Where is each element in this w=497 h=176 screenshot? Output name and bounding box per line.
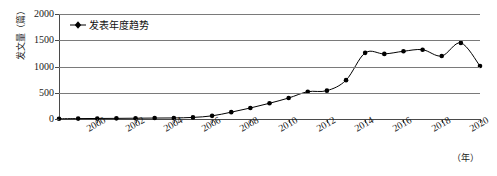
data-point-marker [248,106,253,111]
y-tick-label: 1500 [20,35,54,45]
x-axis-unit-label: （年） [452,151,479,164]
data-point-marker [191,115,196,120]
data-point-marker [363,51,368,56]
x-axis-line [59,119,480,120]
y-tick-label: 0 [20,114,54,124]
y-tick-mark [55,14,59,15]
data-point-marker [229,110,234,115]
legend: 发表年度趋势 [70,17,149,32]
y-tick-label: 2000 [20,9,54,19]
series-path [59,43,480,119]
data-point-marker [76,116,81,121]
gridline [59,14,480,15]
data-point-marker [344,78,349,83]
gridline [59,67,480,68]
data-point-marker [114,116,119,121]
y-tick-mark [55,119,59,120]
data-point-marker [267,101,272,106]
data-point-marker [439,54,444,59]
y-tick-mark [55,40,59,41]
data-point-marker [152,116,157,121]
publication-trend-chart: 发文量（篇） 2000150010005000 2000200220042006… [0,0,497,176]
data-point-marker [459,41,464,46]
data-point-marker [401,49,406,54]
y-tick-label: 1000 [20,62,54,72]
data-point-marker [420,47,425,52]
y-tick-mark [55,93,59,94]
data-point-marker [286,96,291,101]
gridline [59,93,480,94]
gridline [59,40,480,41]
y-axis-tick-labels: 2000150010005000 [20,0,54,176]
y-tick-label: 500 [20,88,54,98]
legend-label: 发表年度趋势 [89,17,149,32]
y-tick-mark [55,67,59,68]
legend-marker-icon [70,20,86,30]
data-point-marker [382,52,387,57]
